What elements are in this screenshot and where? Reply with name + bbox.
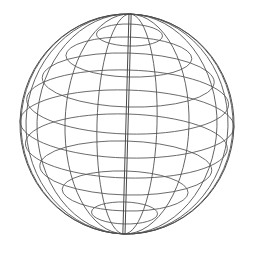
wireframe-sphere-figure: [0, 0, 256, 256]
figure-root: [0, 0, 256, 256]
